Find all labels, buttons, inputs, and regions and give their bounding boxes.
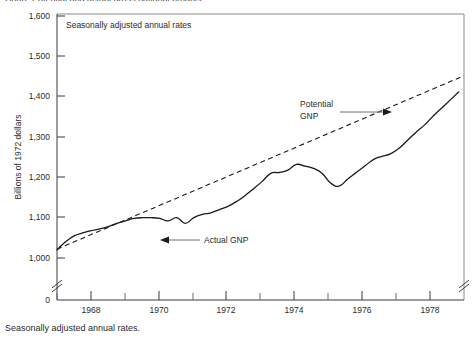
gnp-line-chart: 1,600 1,500 1,400 1,300 1,200 1,100 1,00… — [0, 0, 476, 344]
y-tick-label-1400: 1,400 — [29, 91, 51, 101]
x-tick-label-1972: 1972 — [217, 305, 236, 315]
y-tick-label-1200: 1,200 — [29, 172, 51, 182]
x-tick-label-1976: 1976 — [353, 305, 372, 315]
annotation-actual-gnp: Actual GNP — [160, 235, 249, 245]
annotation-potential-gnp-line2: GNP — [300, 111, 319, 121]
y-tick-label-1100: 1,100 — [29, 212, 51, 222]
annotation-potential-gnp: Potential GNP — [300, 99, 392, 121]
y-tick-label-1300: 1,300 — [29, 132, 51, 142]
x-tick-label-1968: 1968 — [82, 305, 101, 315]
x-tick-label-1978: 1978 — [421, 305, 440, 315]
x-tick-label-1970: 1970 — [150, 305, 169, 315]
y-tick-label-1500: 1,500 — [29, 51, 51, 61]
plot-note-label: Seasonally adjusted annual rates — [66, 20, 191, 30]
figure-caption: Seasonally adjusted annual rates. — [5, 323, 140, 333]
annotation-potential-gnp-line1: Potential — [300, 99, 333, 109]
y-tick-label-1000: 1,000 — [29, 253, 51, 263]
annotation-actual-gnp-label: Actual GNP — [204, 235, 249, 245]
plot-frame — [57, 14, 464, 300]
arrow-right-icon — [383, 109, 392, 116]
x-tick-label-1974: 1974 — [285, 305, 304, 315]
chart-container: Chart: Potential and actual gross nation… — [0, 0, 476, 344]
y-axis-title: Billions of 1972 dollars — [13, 114, 23, 199]
series-actual-gnp-line — [57, 92, 459, 250]
y-axis-ticks — [57, 16, 65, 258]
arrow-left-icon — [160, 237, 169, 244]
y-tick-label-1600: 1,600 — [29, 11, 51, 21]
y-axis-origin-label: 0 — [45, 295, 50, 305]
axis-lines — [57, 14, 464, 300]
